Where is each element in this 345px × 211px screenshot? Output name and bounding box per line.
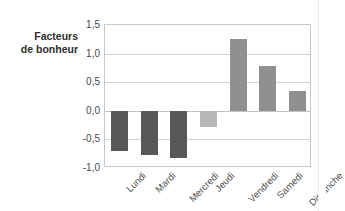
gridline <box>105 82 310 83</box>
bar-samedi <box>259 66 276 111</box>
y-tick-label: 0,5 <box>56 76 100 87</box>
y-axis-title-line-1: Facteurs <box>6 30 78 43</box>
bar-mercredi <box>170 111 187 158</box>
y-axis-title: Facteurs de bonheur <box>6 30 78 56</box>
y-axis-title-line-2: de bonheur <box>6 43 78 56</box>
y-tick-label: 1,5 <box>56 19 100 30</box>
y-tick-label: -0,5 <box>56 133 100 144</box>
bar-dimanche <box>289 91 306 111</box>
x-tick-label: Mardi <box>153 170 178 195</box>
gridline <box>105 54 310 55</box>
plot-area <box>104 24 311 167</box>
y-tick-label: 0,0 <box>56 104 100 115</box>
y-tick-label: -1,0 <box>56 162 100 173</box>
bar-lundi <box>111 111 128 151</box>
x-tick-label: Vendredi <box>246 170 280 204</box>
bar-mardi <box>141 111 158 155</box>
gridline <box>105 139 310 140</box>
bar-jeudi <box>200 111 217 127</box>
x-axis-tick-labels: LundiMardiMercrediJeudiVendrediSamediDim… <box>104 168 311 211</box>
x-tick-label: Samedi <box>274 170 305 201</box>
page-edge-strip <box>318 0 326 211</box>
x-tick-label: Lundi <box>124 170 148 194</box>
bar-vendredi <box>230 39 247 111</box>
